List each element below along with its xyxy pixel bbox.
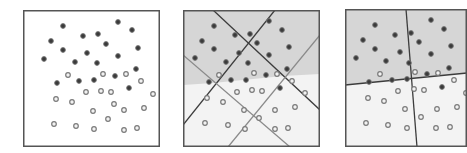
point-class-dark [425, 72, 430, 77]
point-class-dark [55, 81, 60, 86]
point-class-light [74, 124, 79, 129]
point-class-dark [127, 86, 132, 91]
point-class-dark [212, 47, 217, 52]
point-class-dark [442, 27, 447, 32]
point-class-light [235, 90, 240, 95]
point-class-dark [384, 59, 389, 64]
point-class-dark [393, 33, 398, 38]
point-class-light [382, 99, 387, 104]
point-class-dark [233, 33, 238, 38]
point-class-light [435, 107, 440, 112]
panel-four-separators [183, 10, 320, 147]
point-class-dark [96, 32, 101, 37]
point-class-dark [398, 50, 403, 55]
point-class-dark [136, 46, 141, 51]
point-class-dark [287, 45, 292, 50]
point-class-dark [264, 73, 269, 78]
point-class-dark [285, 67, 290, 72]
point-class-light [205, 96, 210, 101]
point-class-dark [449, 44, 454, 49]
point-class-dark [280, 28, 285, 33]
point-class-light [52, 122, 57, 127]
point-class-dark [354, 56, 359, 61]
point-class-light [54, 97, 59, 102]
point-class-light [124, 72, 129, 77]
point-class-dark [278, 86, 283, 91]
point-class-dark [373, 23, 378, 28]
point-class-dark [248, 32, 253, 37]
point-class-dark [61, 48, 66, 53]
point-class-light [135, 126, 140, 131]
plot-canvas [23, 10, 160, 147]
point-class-dark [367, 80, 372, 85]
point-class-light [455, 105, 460, 110]
point-class-light [452, 78, 457, 83]
point-class-light [434, 126, 439, 131]
point-class-dark [212, 24, 217, 29]
point-class-dark [104, 42, 109, 47]
point-class-dark [113, 74, 118, 79]
point-class-dark [447, 66, 452, 71]
point-class-dark [255, 41, 260, 46]
point-class-dark [440, 85, 445, 90]
point-class-dark [134, 67, 139, 72]
point-class-dark [77, 79, 82, 84]
point-class-light [386, 123, 391, 128]
point-class-light [142, 106, 147, 111]
point-class-light [396, 89, 401, 94]
point-class-dark [116, 20, 121, 25]
point-class-light [226, 123, 231, 128]
point-class-dark [267, 19, 272, 24]
point-class-light [419, 115, 424, 120]
point-class-light [422, 88, 427, 93]
point-class-dark [207, 80, 212, 85]
point-class-dark [61, 24, 66, 29]
point-class-light [275, 72, 280, 77]
point-class-dark [92, 78, 97, 83]
point-class-light [290, 79, 295, 84]
point-class-light [257, 116, 262, 121]
point-class-light [66, 73, 71, 78]
point-class-light [99, 89, 104, 94]
point-class-dark [116, 54, 121, 59]
point-class-dark [405, 77, 410, 82]
point-class-dark [95, 61, 100, 66]
point-class-dark [390, 78, 395, 83]
point-class-light [101, 72, 106, 77]
point-class-dark [409, 31, 414, 36]
point-class-light [273, 108, 278, 113]
point-class-dark [85, 51, 90, 56]
point-class-light [92, 127, 97, 132]
point-class-light [122, 108, 127, 113]
point-class-light [293, 105, 298, 110]
point-class-light [448, 125, 453, 130]
point-class-light [366, 96, 371, 101]
point-class-light [252, 71, 257, 76]
point-class-light [412, 87, 417, 92]
point-class-light [122, 128, 127, 133]
point-class-light [403, 107, 408, 112]
point-class-dark [429, 52, 434, 57]
plot-canvas [183, 10, 320, 147]
point-class-light [250, 88, 255, 93]
point-class-dark [407, 61, 412, 66]
point-class-dark [42, 57, 47, 62]
point-class-dark [73, 60, 78, 65]
point-class-light [91, 109, 96, 114]
point-class-light [109, 90, 114, 95]
point-class-light [413, 70, 418, 75]
point-class-light [405, 126, 410, 131]
point-class-dark [237, 51, 242, 56]
panel-two-line-partition [345, 9, 467, 147]
point-class-dark [361, 38, 366, 43]
point-class-light [260, 89, 265, 94]
point-class-light [303, 91, 308, 96]
point-class-light [106, 117, 111, 122]
point-class-dark [229, 78, 234, 83]
point-class-light [286, 126, 291, 131]
point-class-dark [200, 39, 205, 44]
panel-raw-points [23, 10, 160, 147]
point-class-light [151, 92, 156, 97]
point-class-dark [246, 61, 251, 66]
point-class-dark [224, 60, 229, 65]
